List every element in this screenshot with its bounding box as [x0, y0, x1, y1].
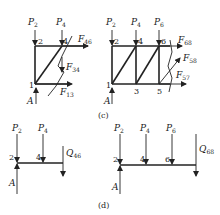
- label-F13: F13: [59, 87, 74, 98]
- member-3-6: [136, 46, 159, 84]
- label-A: A: [103, 96, 111, 106]
- member-1-4: [112, 46, 136, 84]
- label-F58: F58: [182, 53, 197, 64]
- label-P2: P2: [11, 123, 22, 134]
- label-F68: F68: [177, 35, 192, 46]
- node-6: 6: [165, 155, 170, 164]
- truss-free-body-diagrams: P2 P4 2 4 1 F46 F34 F13 A P2 P4 P6 2 4: [0, 0, 220, 215]
- label-P2: P2: [113, 123, 124, 134]
- panel-d-right: [120, 134, 196, 194]
- node-1: 1: [29, 81, 34, 90]
- node-5: 5: [157, 87, 162, 96]
- node-4: 4: [138, 37, 143, 46]
- panel-c: [112, 30, 186, 104]
- panel-c-labels: P2 P4 P6 2 4 6 1 3 5 F68 F58 F57 A (c): [98, 17, 197, 120]
- node-4: 4: [63, 37, 68, 46]
- panel-d-left: [17, 134, 63, 194]
- label-A: A: [26, 96, 34, 106]
- node-3: 3: [134, 87, 139, 96]
- label-A: A: [111, 182, 119, 192]
- label-P4: P4: [55, 17, 66, 28]
- node-6: 6: [161, 37, 166, 46]
- label-A: A: [8, 178, 16, 188]
- label-P2: P2: [105, 17, 116, 28]
- label-Q68: Q68: [199, 144, 214, 155]
- label-P2: P2: [27, 17, 38, 28]
- label-F46: F46: [77, 34, 92, 45]
- caption-c: (c): [98, 111, 109, 120]
- node-4: 4: [36, 153, 41, 162]
- node-1: 1: [106, 81, 111, 90]
- label-F57: F57: [175, 70, 190, 81]
- caption-d: (d): [98, 201, 109, 210]
- label-F34: F34: [65, 62, 80, 73]
- label-P4: P4: [139, 123, 150, 134]
- label-P6: P6: [165, 123, 176, 134]
- label-P6: P6: [153, 17, 164, 28]
- node-2: 2: [114, 37, 119, 46]
- node-2: 2: [113, 155, 118, 164]
- label-P4: P4: [130, 17, 141, 28]
- label-Q46: Q46: [66, 148, 81, 159]
- node-4: 4: [140, 155, 145, 164]
- label-P4: P4: [37, 123, 48, 134]
- node-2: 2: [9, 153, 14, 162]
- panel-d-right-labels: P2 P4 P6 2 4 6 Q68 A (d): [98, 123, 214, 210]
- panel-d-left-labels: P2 P4 2 4 Q46 A: [8, 123, 81, 188]
- node-2: 2: [38, 37, 43, 46]
